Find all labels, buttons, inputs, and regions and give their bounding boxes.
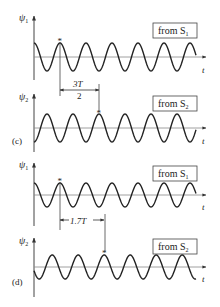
axis-label-psi: ψ1 (19, 159, 28, 171)
panel-label: (d) (12, 277, 23, 287)
source-label: from S2 (158, 98, 189, 110)
time-label: t (202, 136, 205, 146)
peak-marker: * (102, 248, 107, 258)
panel-c-wave-1: ψ1 t * from S1 (19, 12, 206, 96)
source-label: from S1 (158, 168, 189, 180)
time-label: t (202, 65, 205, 75)
axis-label-psi: ψ2 (19, 91, 28, 103)
panel-d-wave-2: ψ2 t * from S2 (d) (12, 214, 206, 297)
axis-label-psi: ψ1 (19, 12, 28, 24)
source-label: from S2 (158, 241, 189, 253)
axis-label-psi: ψ2 (19, 235, 28, 247)
offset-label: 1.7T (70, 216, 87, 226)
source-label: from S1 (158, 25, 189, 37)
panel-c-wave-2: ψ2 t * from S2 (c) (12, 84, 206, 152)
offset-dimension-c: 3T 2 (60, 79, 99, 101)
offset-denominator: 2 (77, 91, 82, 101)
panel-d-wave-1: ψ1 t * from S1 (19, 159, 206, 230)
offset-numerator: 3T (72, 79, 84, 89)
wave-diagram: ψ1 t * from S1 3T 2 ψ2 t * from S2 (c) ψ… (0, 0, 220, 307)
panel-label: (c) (12, 136, 22, 146)
time-label: t (202, 202, 205, 212)
offset-dimension-d: 1.7T (60, 214, 104, 226)
time-label: t (202, 274, 205, 284)
